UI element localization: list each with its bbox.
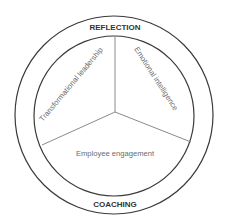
divider-lower-right xyxy=(115,112,191,142)
concentric-framework-diagram: REFLECTION COACHING Transformational lea… xyxy=(0,0,228,224)
emotional-intelligence-label: Emotional intelligence xyxy=(132,45,180,112)
employee-engagement-label: Employee engagement xyxy=(76,149,155,158)
coaching-label: COACHING xyxy=(93,200,137,209)
divider-lower-left xyxy=(42,112,115,145)
reflection-label: REFLECTION xyxy=(89,23,140,32)
transformational-leadership-label: Transformational leadership xyxy=(37,46,104,124)
inner-circle xyxy=(34,36,194,196)
